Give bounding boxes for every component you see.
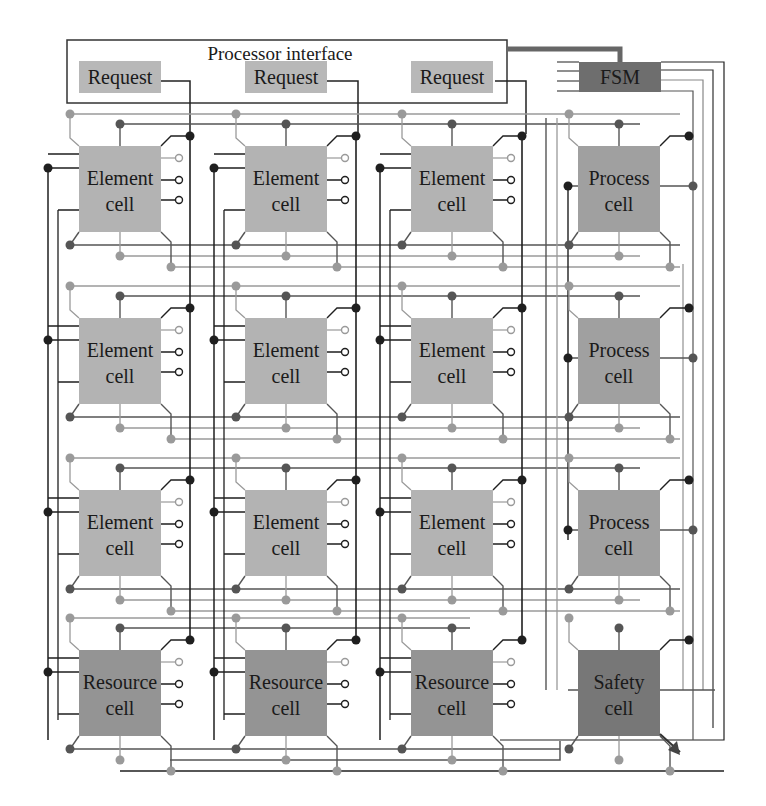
architecture-diagram: Processor interface Request Request Requ… — [0, 0, 766, 806]
request-box-1: Request — [79, 61, 161, 93]
svg-text:cell: cell — [605, 537, 634, 559]
cell-r1-c4: Processcell — [564, 110, 698, 272]
svg-text:Request: Request — [254, 66, 319, 89]
svg-text:Request: Request — [420, 66, 485, 89]
cell-r1-c2: Elementcell — [210, 110, 361, 272]
svg-text:Resource: Resource — [83, 671, 158, 693]
svg-text:cell: cell — [605, 697, 634, 719]
svg-text:cell: cell — [438, 365, 467, 387]
cell-r2-c1: Elementcell — [44, 282, 195, 444]
fsm-block: FSM — [579, 62, 661, 92]
processor-interface-title: Processor interface — [207, 43, 352, 64]
cell-r3-c3: Elementcell — [376, 454, 527, 616]
cell-r2-c4: Processcell — [564, 282, 698, 444]
svg-text:Element: Element — [253, 167, 320, 189]
svg-text:Safety: Safety — [593, 671, 644, 694]
cell-r4-c3: Resourcecell — [376, 614, 527, 776]
svg-text:Element: Element — [253, 511, 320, 533]
cell-r3-c4: Processcell — [564, 454, 698, 616]
svg-text:Element: Element — [419, 167, 486, 189]
svg-text:cell: cell — [272, 193, 301, 215]
cell-r2-c2: Elementcell — [210, 282, 361, 444]
svg-text:Process: Process — [588, 339, 649, 361]
svg-text:cell: cell — [438, 193, 467, 215]
svg-text:FSM: FSM — [600, 66, 640, 88]
cell-r1-c1: Elementcell — [44, 110, 195, 272]
svg-text:cell: cell — [605, 193, 634, 215]
cell-r4-c1: Resourcecell — [44, 614, 195, 776]
svg-text:Element: Element — [87, 167, 154, 189]
svg-text:cell: cell — [272, 365, 301, 387]
svg-text:Process: Process — [588, 167, 649, 189]
svg-text:cell: cell — [106, 365, 135, 387]
svg-text:Element: Element — [87, 339, 154, 361]
request-box-3: Request — [411, 61, 493, 93]
svg-text:cell: cell — [438, 537, 467, 559]
svg-text:Element: Element — [419, 511, 486, 533]
svg-text:Resource: Resource — [415, 671, 490, 693]
svg-text:cell: cell — [272, 537, 301, 559]
svg-text:Process: Process — [588, 511, 649, 533]
cell-r3-c2: Elementcell — [210, 454, 361, 616]
request-box-2: Request — [245, 61, 327, 93]
svg-text:Request: Request — [88, 66, 153, 89]
svg-text:cell: cell — [438, 697, 467, 719]
cell-r3-c1: Elementcell — [44, 454, 195, 616]
interface-fsm-bus — [507, 49, 620, 62]
svg-text:cell: cell — [605, 365, 634, 387]
svg-text:Element: Element — [87, 511, 154, 533]
svg-text:Resource: Resource — [249, 671, 324, 693]
svg-text:cell: cell — [106, 697, 135, 719]
svg-text:cell: cell — [272, 697, 301, 719]
cell-r2-c3: Elementcell — [376, 282, 527, 444]
svg-text:cell: cell — [106, 537, 135, 559]
svg-text:cell: cell — [106, 193, 135, 215]
cell-r4-c2: Resourcecell — [210, 614, 361, 776]
svg-text:Element: Element — [419, 339, 486, 361]
svg-text:Element: Element — [253, 339, 320, 361]
cell-r1-c3: Elementcell — [376, 110, 527, 272]
